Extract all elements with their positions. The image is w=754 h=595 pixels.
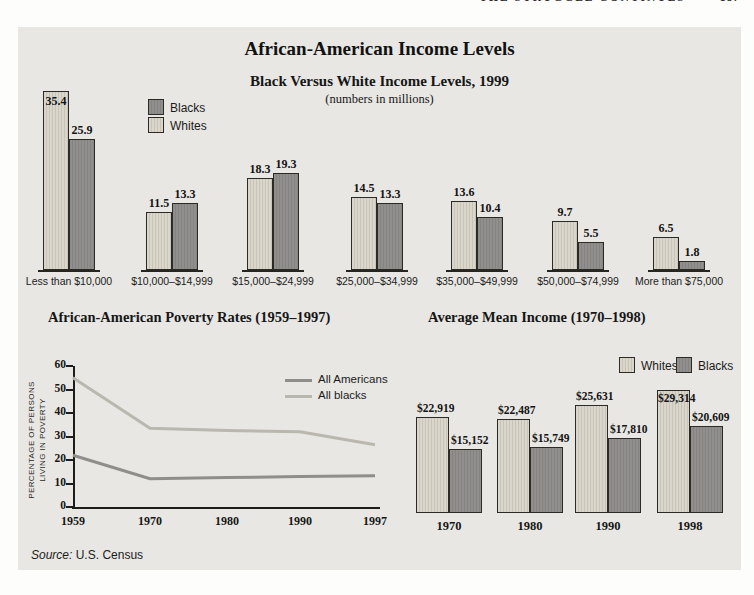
group-baseline-4 [446,270,508,272]
page: THE STRUGGLE CONTINUES187 African-Americ… [0,0,754,595]
year-label-1980: 1980 [490,519,570,534]
poverty-line-all-americans [73,455,375,479]
group-baseline-6 [648,270,710,272]
year-label-1998: 1998 [650,519,730,534]
group-baseline-3 [346,270,408,272]
bar-blacks-1980 [530,447,563,513]
y-tick-label-40: 40 [36,405,66,417]
year-label-1990: 1990 [568,519,648,534]
category-label-2: $15,000–$24,999 [216,275,330,287]
bar-whites-1998 [657,390,690,513]
bar-whites-2 [247,178,273,270]
chart1-title: Black Versus White Income Levels, 1999 [18,73,741,90]
year-label-1970: 1970 [409,519,489,534]
legend-label-whites-income: Whites [641,359,678,373]
category-label-6: More than $75,000 [622,275,736,287]
x-tick-label-1990: 1990 [272,514,328,529]
bar-blacks-3 [377,203,403,270]
y-tick-label-20: 20 [36,452,66,464]
running-header-title: THE STRUGGLE CONTINUES [479,0,685,3]
group-baseline-0 [38,270,100,272]
group-baseline-2 [242,270,304,272]
bar-blacks-0 [69,139,95,270]
x-tick-label-1997: 1997 [347,514,403,529]
bar-whites-0 [43,91,69,270]
x-tick-label-1959: 1959 [45,514,101,529]
source-text: U.S. Census [76,548,143,562]
y-tick-label-30: 30 [36,429,66,441]
bar-blacks-2 [273,173,299,270]
value-label-whites-4: 13.6 [429,185,499,200]
bar-blacks-4 [477,217,503,270]
y-tick-20 [66,459,73,461]
group-baseline-1 [141,270,203,272]
source-label: Source: [31,548,72,562]
value-label-whites-6: 6.5 [631,221,701,236]
x-tick-label-1970: 1970 [122,514,178,529]
legend-swatch-blacks-income [676,357,692,373]
bar-whites-1970 [416,417,449,513]
y-tick-label-50: 50 [36,382,66,394]
running-header-page-number: 187 [720,0,740,3]
legend-label-blacks: Blacks [170,101,205,115]
running-header-text-row: THE STRUGGLE CONTINUES187 [479,0,740,3]
value-label-blacks-5: 5.5 [556,226,626,241]
bar-blacks-6 [679,261,705,270]
y-tick-40 [66,412,73,414]
value-label-blacks-6: 1.8 [657,245,727,260]
main-title: African-American Income Levels [18,38,741,60]
y-tick-label-10: 10 [36,476,66,488]
running-header: THE STRUGGLE CONTINUES187 [479,0,740,7]
value-label-blacks-1: 13.3 [150,187,220,202]
category-label-1: $10,000–$14,999 [115,275,229,287]
bar-whites-1980 [497,419,530,513]
bar-blacks-5 [578,242,604,270]
bar-blacks-1 [172,203,198,270]
category-label-4: $35,000–$49,999 [420,275,534,287]
chart-panel: African-American Income Levels Black Ver… [18,27,741,570]
value-label-whites-1980: $22,487 [498,404,560,416]
legend-swatch-whites-income [619,357,635,373]
category-label-0: Less than $10,000 [12,275,126,287]
value-label-whites-0: 35.4 [21,94,91,109]
y-tick-60 [66,365,73,367]
legend-label-whites: Whites [170,119,207,133]
value-label-whites-1990: $25,631 [576,390,638,402]
y-tick-50 [66,389,73,391]
bar-blacks-1970 [449,449,482,513]
bar-whites-1990 [575,405,608,513]
legend-swatch-whites [148,117,164,133]
y-tick-label-60: 60 [36,358,66,370]
legend-swatch-blacks [148,99,164,115]
y-tick-10 [66,483,73,485]
y-tick-30 [66,436,73,438]
bar-whites-3 [351,197,377,270]
value-label-blacks-3: 13.3 [355,187,425,202]
group-baseline-5 [547,270,609,272]
bar-blacks-1990 [608,438,641,513]
value-label-blacks-2: 19.3 [251,157,321,172]
category-label-3: $25,000–$34,999 [320,275,434,287]
legend-label-blacks-income: Blacks [698,359,733,373]
x-tick-label-1980: 1980 [199,514,255,529]
chart3-title: Average Mean Income (1970–1998) [428,309,646,326]
value-label-blacks-0: 25.9 [47,123,117,138]
value-label-blacks-4: 10.4 [455,201,525,216]
y-tick-label-0: 0 [36,499,66,511]
source-note: Source: U.S. Census [31,548,143,562]
bar-whites-1 [146,212,172,270]
value-label-whites-1998: $29,314 [658,392,720,404]
poverty-line-all-blacks [73,378,375,445]
chart2-title: African-American Poverty Rates (1959–199… [48,309,330,326]
category-label-5: $50,000–$74,999 [521,275,635,287]
value-label-blacks-1998: $20,609 [692,411,754,423]
poverty-lines-canvas [73,363,383,511]
bar-blacks-1998 [690,426,723,513]
value-label-whites-5: 9.7 [530,205,600,220]
y-tick-0 [66,506,73,508]
chart1-subtitle: (numbers in millions) [18,92,741,107]
value-label-whites-1970: $22,919 [417,402,479,414]
